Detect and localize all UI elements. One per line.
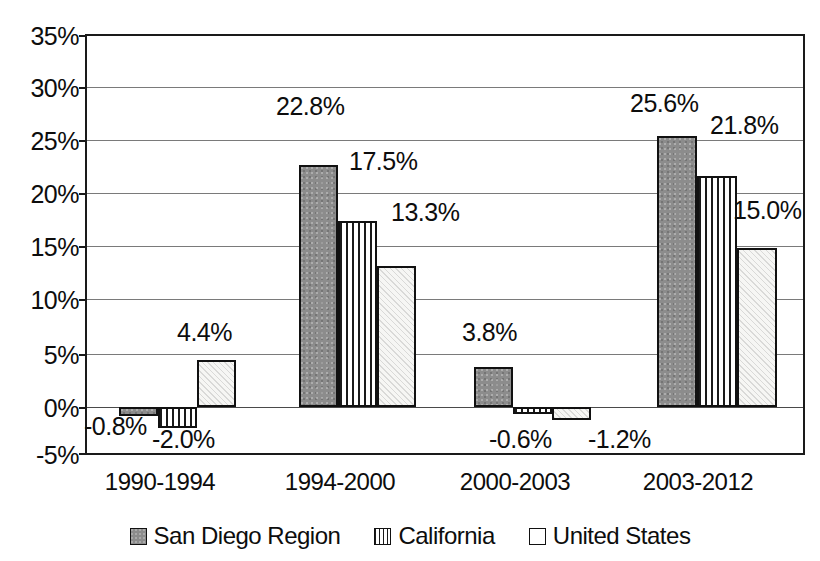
legend-item-san-diego-region: San Diego Region <box>130 522 341 550</box>
bar-2003-2012-california <box>697 176 737 407</box>
y-tick-label-30: 30% <box>7 74 79 103</box>
data-label-2000-2003-united-states: -1.2% <box>588 425 651 454</box>
bar-2000-2003-california <box>513 407 552 414</box>
data-label-2003-2012-san-diego-region: 25.6% <box>630 89 698 118</box>
category-label-2000-2003: 2000-2003 <box>415 468 615 496</box>
y-tick-label-35: 35% <box>7 22 79 51</box>
data-label-1990-1994-san-diego-region: -0.8% <box>84 412 147 441</box>
legend-swatch-icon-california <box>374 528 391 545</box>
data-label-2000-2003-california: -0.6% <box>489 425 552 454</box>
y-tick-label-0: 0% <box>7 394 79 423</box>
legend-swatch-icon-san-diego-region <box>130 528 147 545</box>
y-tick-label-15: 15% <box>7 233 79 262</box>
bar-2003-2012-united-states <box>737 248 777 407</box>
y-tick-label-25: 25% <box>7 127 79 156</box>
bar-1994-2000-california <box>338 221 377 407</box>
gridline-30 <box>87 87 803 88</box>
data-label-1994-2000-united-states: 13.3% <box>391 198 459 227</box>
bar-2000-2003-san-diego-region <box>474 367 513 407</box>
data-label-1990-1994-united-states: 4.4% <box>177 318 232 347</box>
chart-legend: San Diego Region California United State… <box>0 522 820 550</box>
legend-label-united-states: United States <box>553 522 691 550</box>
legend-item-california: California <box>374 522 494 550</box>
y-tick-label-5: 5% <box>7 341 79 370</box>
data-label-1994-2000-san-diego-region: 22.8% <box>276 92 344 121</box>
data-label-2000-2003-san-diego-region: 3.8% <box>462 318 517 347</box>
data-label-2003-2012-united-states: 15.0% <box>733 196 801 225</box>
data-label-2003-2012-california: 21.8% <box>710 111 778 140</box>
y-tick-label-20: 20% <box>7 180 79 209</box>
bar-1990-1994-united-states <box>197 360 236 407</box>
y-tick-label-10: 10% <box>7 286 79 315</box>
category-label-2003-2012: 2003-2012 <box>598 468 798 496</box>
legend-swatch-icon-united-states <box>529 528 546 545</box>
bar-2003-2012-san-diego-region <box>657 136 697 407</box>
category-label-1990-1994: 1990-1994 <box>60 468 260 496</box>
legend-label-california: California <box>398 522 494 550</box>
legend-label-san-diego-region: San Diego Region <box>154 522 341 550</box>
bar-1994-2000-united-states <box>377 266 416 407</box>
data-label-1990-1994-california: -2.0% <box>152 425 215 454</box>
bar-2000-2003-united-states <box>552 407 591 420</box>
y-tick-label-neg5: -5% <box>7 441 79 470</box>
bar-chart: 35% 30% 25% 20% 15% 10% 5% 0% -5% <box>0 0 820 561</box>
category-label-1994-2000: 1994-2000 <box>240 468 440 496</box>
bar-1994-2000-san-diego-region <box>299 165 338 407</box>
data-label-1994-2000-california: 17.5% <box>349 147 417 176</box>
legend-item-united-states: United States <box>529 522 691 550</box>
